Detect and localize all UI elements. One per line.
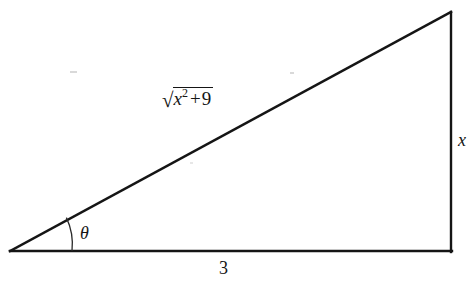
angle-theta-label: θ [80,224,89,242]
hypotenuse-label: √x2+9 [162,88,213,110]
scan-speck [190,162,193,164]
trig-triangle-figure: √x2+9 x 3 θ [0,0,475,285]
hypotenuse-constant: 9 [202,88,212,109]
hypotenuse-exponent: 2 [182,86,188,100]
radicand-group: x2+9 [173,87,214,108]
scan-speck [70,71,77,73]
hypotenuse-operator: + [188,88,202,109]
opposite-side-label: x [458,131,466,149]
adjacent-side-label: 3 [219,259,228,277]
scan-speck [290,72,294,74]
angle-arc [66,218,72,251]
hypotenuse-line [10,12,451,251]
radical-sign-icon: √ [162,88,173,112]
triangle-drawing [0,0,475,285]
hypotenuse-variable: x [174,88,182,109]
